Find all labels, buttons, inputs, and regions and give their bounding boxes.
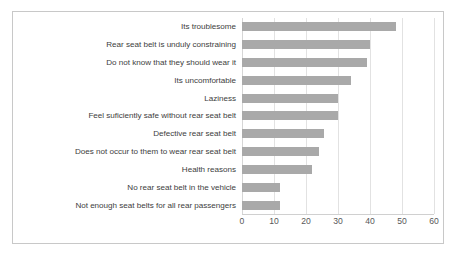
x-axis-line bbox=[242, 214, 434, 215]
bar bbox=[242, 165, 312, 174]
bar-row bbox=[242, 178, 434, 196]
category-label: No rear seat belt in the vehicle bbox=[13, 178, 242, 196]
bar-series bbox=[242, 18, 434, 214]
bar bbox=[242, 201, 280, 210]
bar bbox=[242, 22, 396, 31]
category-label: Its troublesome bbox=[13, 18, 242, 36]
x-tick-label: 30 bbox=[333, 216, 343, 226]
bar-row bbox=[242, 36, 434, 54]
bar bbox=[242, 40, 370, 49]
x-tick-label: 40 bbox=[365, 216, 375, 226]
plot-area bbox=[242, 18, 434, 214]
x-axis-tick-labels: 0102030405060 bbox=[242, 216, 434, 234]
chart-container: Its troublesomeRear seat belt is unduly … bbox=[12, 11, 444, 244]
category-label: Feel suficiently safe without rear seat … bbox=[13, 107, 242, 125]
bar bbox=[242, 183, 280, 192]
bar bbox=[242, 58, 367, 67]
category-label: Defective rear seat belt bbox=[13, 125, 242, 143]
bar bbox=[242, 76, 351, 85]
bar-row bbox=[242, 196, 434, 214]
x-tick-label: 50 bbox=[397, 216, 407, 226]
x-tick-label: 0 bbox=[240, 216, 245, 226]
x-tick-label: 20 bbox=[301, 216, 311, 226]
category-label: Does not occur to them to wear rear seat… bbox=[13, 143, 242, 161]
category-label: Its uncomfortable bbox=[13, 71, 242, 89]
bar bbox=[242, 129, 324, 138]
bar-row bbox=[242, 125, 434, 143]
bar-row bbox=[242, 54, 434, 72]
chart-plot-wrapper: Its troublesomeRear seat belt is unduly … bbox=[13, 12, 443, 243]
bar bbox=[242, 94, 338, 103]
bar-row bbox=[242, 18, 434, 36]
category-label: Rear seat belt is unduly constraining bbox=[13, 36, 242, 54]
category-label: Laziness bbox=[13, 89, 242, 107]
category-label: Health reasons bbox=[13, 161, 242, 179]
bar bbox=[242, 147, 319, 156]
category-label: Not enough seat belts for all rear passe… bbox=[13, 196, 242, 214]
category-label: Do not know that they should wear it bbox=[13, 54, 242, 72]
bar-row bbox=[242, 143, 434, 161]
bar bbox=[242, 111, 338, 120]
bar-row bbox=[242, 161, 434, 179]
gridline bbox=[434, 18, 435, 214]
bar-row bbox=[242, 107, 434, 125]
x-tick-label: 10 bbox=[269, 216, 279, 226]
x-tick-label: 60 bbox=[429, 216, 439, 226]
category-axis-labels: Its troublesomeRear seat belt is unduly … bbox=[13, 18, 242, 214]
bar-row bbox=[242, 89, 434, 107]
bar-row bbox=[242, 71, 434, 89]
